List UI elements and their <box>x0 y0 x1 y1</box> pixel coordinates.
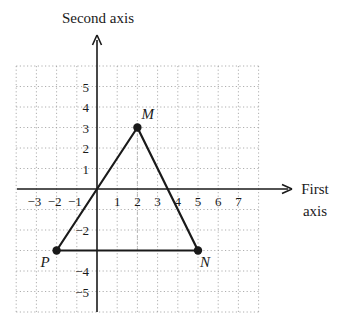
triangle-points: MNP <box>40 106 211 270</box>
x-tick-label: 2 <box>134 194 141 209</box>
y-axis-title: Second axis <box>62 10 134 26</box>
x-tick-label: −3 <box>27 194 41 209</box>
x-tick-label: −2 <box>48 194 62 209</box>
y-tick-label: −4 <box>75 264 89 279</box>
x-tick-label: −1 <box>68 194 82 209</box>
x-tick-label: 3 <box>154 194 161 209</box>
y-tick-label: 4 <box>83 100 90 115</box>
point-M-dot <box>133 123 141 131</box>
axes <box>17 35 292 312</box>
x-tick-label: 1 <box>114 194 121 209</box>
y-tick-label: 1 <box>83 162 90 177</box>
x-axis-title-line1: First <box>301 181 329 197</box>
x-tick-label: 5 <box>195 194 202 209</box>
x-tick-label: 7 <box>235 194 242 209</box>
y-tick-label: 3 <box>83 121 90 136</box>
point-label-N: N <box>199 254 211 270</box>
y-tick-label: −2 <box>75 223 89 238</box>
point-label-P: P <box>40 254 50 270</box>
y-tick-label: 5 <box>83 80 90 95</box>
point-P-dot <box>52 246 60 254</box>
coordinate-plane-svg: −3−2−1123456754321−2−4−5 MNP Second axis… <box>0 0 354 323</box>
y-tick-label: −5 <box>75 285 89 300</box>
x-tick-label: 6 <box>215 194 222 209</box>
x-axis-title-line2: axis <box>303 203 327 219</box>
coordinate-plane-figure: −3−2−1123456754321−2−4−5 MNP Second axis… <box>0 0 354 323</box>
point-label-M: M <box>140 106 155 122</box>
y-tick-label: 2 <box>83 141 90 156</box>
